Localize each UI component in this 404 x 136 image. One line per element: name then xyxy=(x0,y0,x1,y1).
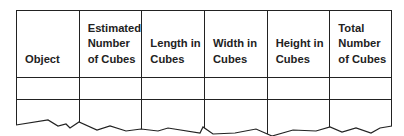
torn-edge-decoration xyxy=(0,0,404,136)
